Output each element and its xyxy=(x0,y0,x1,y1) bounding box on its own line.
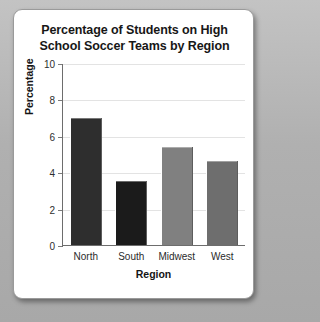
x-axis-tick-label: North xyxy=(74,251,98,262)
bar xyxy=(161,147,193,245)
x-axis-tick-label: South xyxy=(118,251,144,262)
y-axis-tick xyxy=(58,210,62,211)
x-axis-title: Region xyxy=(62,268,245,280)
chart-title-line-1: Percentage of Students on High xyxy=(24,22,245,38)
bar-group: West xyxy=(200,63,246,245)
bar-group: North xyxy=(63,63,109,245)
screenshot-root: Percentage of Students on High School So… xyxy=(0,0,268,322)
y-axis-tick-label: 6 xyxy=(49,131,55,142)
y-axis-tick-label: 2 xyxy=(49,204,55,215)
bar-layer: NorthSouthMidwestWest xyxy=(63,63,245,245)
chart-title-line-2: School Soccer Teams by Region xyxy=(24,38,245,54)
x-axis-tick-label: West xyxy=(211,251,234,262)
y-axis-tick xyxy=(58,64,62,65)
bar-group: South xyxy=(109,63,155,245)
y-axis-title: Percentage xyxy=(23,58,35,115)
x-axis-tick-label: Midwest xyxy=(158,251,195,262)
bar-group: Midwest xyxy=(154,63,200,245)
bar xyxy=(115,181,147,245)
y-axis-tick-label: 0 xyxy=(49,241,55,252)
bar xyxy=(70,118,102,245)
y-axis-tick xyxy=(58,246,62,247)
plot-area: 1086420 NorthSouthMidwestWest xyxy=(62,64,245,246)
y-axis-tick xyxy=(58,173,62,174)
y-axis-tick xyxy=(58,100,62,101)
chart-title: Percentage of Students on High School So… xyxy=(24,22,245,54)
bar xyxy=(206,161,238,245)
y-axis-tick-label: 8 xyxy=(49,95,55,106)
y-axis-tick-label: 10 xyxy=(44,59,55,70)
y-axis-tick-label: 4 xyxy=(49,168,55,179)
x-axis-line xyxy=(62,245,245,246)
y-axis-tick xyxy=(58,137,62,138)
chart-card: Percentage of Students on High School So… xyxy=(13,9,254,299)
